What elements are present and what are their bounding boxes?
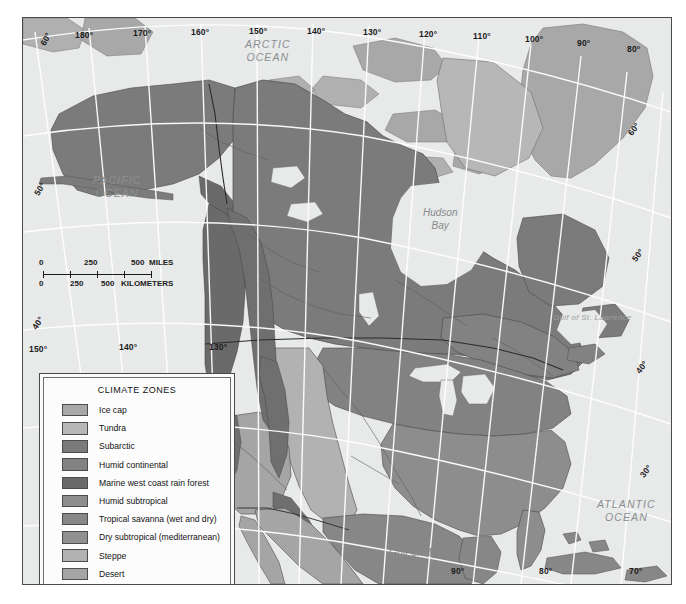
scale-km-ticks: 0 250 500 KILOMETERS: [39, 279, 179, 291]
label-pacific-ocean: PACIFIC OCEAN: [93, 174, 141, 200]
legend-label-ice-cap: Ice cap: [99, 405, 127, 415]
legend-swatch-tundra: [62, 422, 88, 435]
coord-left-lower-130: 130°: [209, 342, 227, 352]
label-hudson-bay: Hudson Bay: [423, 206, 457, 232]
legend-item-dry-subtropical: Dry subtropical (mediterranean): [52, 528, 222, 546]
coord-top-110: 110°: [473, 31, 491, 41]
legend-swatch-marine-west-coast: [62, 477, 88, 490]
coord-bottom-90: 90°: [451, 566, 464, 576]
legend-label-dry-subtropical: Dry subtropical (mediterranean): [99, 532, 220, 542]
scale-bar: 0 250 500 MILES 0 250 500 KI: [39, 258, 179, 291]
legend-swatch-desert: [62, 568, 88, 581]
legend-item-humid-subtropical: Humid subtropical: [52, 492, 222, 510]
label-atlantic-ocean: ATLANTIC OCEAN: [597, 498, 656, 524]
climate-map-page: ARCTIC OCEAN PACIFIC OCEAN ATLANTIC OCEA…: [0, 0, 686, 604]
legend-swatch-humid-continental: [62, 458, 88, 471]
coord-top-170: 170°: [133, 28, 151, 38]
coord-top-120: 120°: [419, 29, 437, 39]
scale-miles-unit: MILES: [149, 258, 173, 267]
legend-box: CLIMATE ZONES Ice cap Tundra Subarctic: [39, 373, 235, 585]
coord-top-180: 180°: [75, 30, 93, 40]
legend-label-marine-west-coast: Marine west coast rain forest: [99, 478, 209, 488]
legend-item-marine-west-coast: Marine west coast rain forest: [52, 474, 222, 492]
scale-bar-graphic: [39, 271, 179, 278]
scale-miles-ticks: 0 250 500 MILES: [39, 258, 179, 270]
label-gulf-of-st-lawrence: Gulf of St. Lawrence: [553, 311, 631, 324]
scale-km-unit: KILOMETERS: [121, 279, 173, 288]
legend-item-tropical-savanna: Tropical savanna (wet and dry): [52, 510, 222, 528]
coord-top-140: 140°: [307, 26, 325, 36]
legend-label-tropical-savanna: Tropical savanna (wet and dry): [99, 514, 217, 524]
coord-bottom-80: 80°: [539, 566, 552, 576]
legend-swatch-subarctic: [62, 440, 88, 453]
coord-top-80: 80°: [627, 44, 640, 54]
coord-top-150: 150°: [249, 26, 267, 36]
map-canvas: ARCTIC OCEAN PACIFIC OCEAN ATLANTIC OCEA…: [23, 18, 671, 584]
legend-label-desert: Desert: [99, 569, 124, 579]
legend-label-steppe: Steppe: [99, 551, 126, 561]
legend-item-desert: Desert: [52, 565, 222, 583]
coord-top-100: 100°: [525, 34, 543, 44]
legend-item-tundra: Tundra: [52, 419, 222, 437]
legend-swatch-tropical-savanna: [62, 513, 88, 526]
legend-label-tundra: Tundra: [99, 423, 126, 433]
coord-top-130: 130°: [363, 27, 381, 37]
legend-item-ice-cap: Ice cap: [52, 401, 222, 419]
legend-inner: CLIMATE ZONES Ice cap Tundra Subarctic: [43, 377, 231, 585]
scale-miles-tick-250: 250: [84, 258, 97, 267]
scale-km-tick-500: 500: [101, 279, 114, 288]
legend-swatch-humid-subtropical: [62, 495, 88, 508]
legend-title: CLIMATE ZONES: [52, 385, 222, 395]
legend-item-subarctic: Subarctic: [52, 437, 222, 455]
legend-swatch-dry-subtropical: [62, 531, 88, 544]
scale-miles-tick-0: 0: [39, 258, 43, 267]
legend-item-steppe: Steppe: [52, 547, 222, 565]
legend-item-highland: Highland: [52, 583, 222, 585]
scale-miles-tick-500: 500: [131, 258, 144, 267]
legend-item-humid-continental: Humid continental: [52, 456, 222, 474]
label-arctic-ocean: ARCTIC OCEAN: [245, 38, 291, 64]
legend-label-subarctic: Subarctic: [99, 441, 135, 451]
coord-left-lower-150: 150°: [29, 344, 47, 354]
scale-km-tick-0: 0: [39, 279, 43, 288]
coord-left-lower-140: 140°: [119, 342, 137, 352]
scale-km-tick-250: 250: [70, 279, 83, 288]
legend-swatch-ice-cap: [62, 404, 88, 417]
map-frame: ARCTIC OCEAN PACIFIC OCEAN ATLANTIC OCEA…: [22, 17, 672, 585]
label-gulf-of-mexico: Gulf of Mexico: [389, 546, 456, 559]
legend-swatch-steppe: [62, 549, 88, 562]
coord-bottom-70: 70°: [629, 566, 642, 576]
coord-top-160: 160°: [191, 27, 209, 37]
coord-top-90: 90°: [577, 38, 590, 48]
legend-label-humid-subtropical: Humid subtropical: [99, 496, 168, 506]
legend-label-humid-continental: Humid continental: [99, 460, 168, 470]
